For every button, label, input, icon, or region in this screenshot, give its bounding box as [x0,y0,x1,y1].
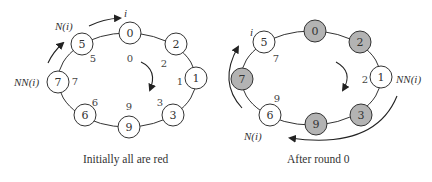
node-id: 2 [357,36,364,49]
node-id: 3 [170,109,177,122]
node-id: 5 [79,38,86,51]
left-label-n: N(i) [54,20,73,33]
node-5: 5 [253,31,275,53]
node-id: 9 [313,118,320,131]
node-0: 0 [119,22,141,44]
node-id: 5 [261,36,268,49]
node-2: 2 [165,33,187,55]
node-9: 9 [305,113,327,135]
node-2: 2 [349,31,371,53]
node-1: 1 [370,66,392,88]
node-7: 7 [47,71,69,93]
node-id: 7 [55,76,62,89]
right-label-i: i [250,26,253,38]
node-value-label: 2 [362,74,368,85]
node-1: 1 [185,67,207,89]
node-id: 1 [378,71,385,84]
right-caption: After round 0 [287,153,350,165]
node-value-label: 6 [92,97,98,108]
node-7: 7 [231,68,253,90]
node-value-label: 7 [72,76,78,87]
node-id: 7 [239,73,246,86]
node-value-label: 3 [157,97,163,108]
node-3: 3 [162,104,184,126]
node-id: 3 [358,109,365,122]
left-diagram: i N(i) NN(i) 02139675 02139675 Initially… [13,7,207,166]
node-value-label: 2 [161,58,167,69]
left-label-nn: NN(i) [13,76,39,89]
arrow-n-to-i-icon [89,18,120,26]
left-rotation-arrow-icon [141,62,153,90]
left-caption: Initially all are red [83,153,169,166]
node-5: 5 [71,33,93,55]
node-3: 3 [350,104,372,126]
node-id: 6 [267,109,274,122]
node-value-label: 9 [274,93,280,104]
arrow-nn-to-n-icon [290,96,397,140]
node-6: 6 [259,104,281,126]
node-id: 1 [193,72,200,85]
right-label-nn: NN(i) [395,73,421,86]
node-0: 0 [304,20,326,42]
node-value-label: 7 [273,53,279,64]
node-value-label: 9 [126,101,132,112]
node-id: 2 [173,38,180,51]
arrow-nn-to-n-icon [48,43,63,63]
node-value-label: 5 [90,53,96,64]
diagram-canvas: i N(i) NN(i) 02139675 02139675 Initially… [0,0,432,182]
node-value-label: 1 [177,76,183,87]
right-diagram: i N(i) NN(i) 02139675 729 After round 0 [229,20,421,165]
node-id: 6 [82,109,89,122]
node-id: 0 [312,25,319,38]
node-9: 9 [118,116,140,138]
left-label-i: i [124,7,127,19]
node-value-label: 0 [127,53,133,64]
node-id: 0 [127,27,134,40]
right-rotation-arrow-icon [336,62,347,90]
right-label-n: N(i) [243,130,262,143]
node-id: 9 [126,121,133,134]
